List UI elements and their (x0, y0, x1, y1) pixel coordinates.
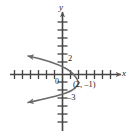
vertex-point-label: (2, –1) (73, 80, 96, 89)
y-tick-label-negative-3: –3 (67, 93, 76, 102)
graph-figure: y x 2 0 –3 (2, –1) (0, 0, 132, 140)
x-axis-label: x (122, 69, 126, 78)
x-axis (10, 70, 121, 79)
y-axis-label: y (59, 3, 63, 12)
coordinate-plane-svg (0, 0, 132, 140)
origin-label: 0 (55, 78, 59, 86)
y-tick-label-2: 2 (68, 54, 72, 63)
y-axis (58, 12, 68, 131)
